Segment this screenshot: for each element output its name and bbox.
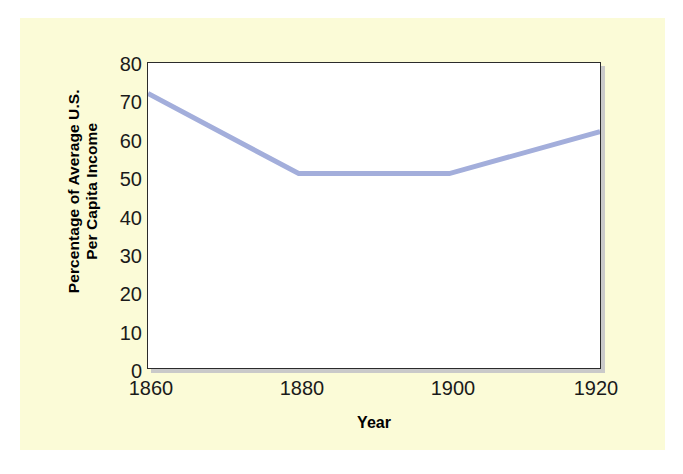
y-tick-label: 70: [96, 92, 142, 112]
y-tick-label: 10: [96, 323, 142, 343]
chart-figure: 80 70 60 50 40 30 20 10 0 1860 1880 1900…: [0, 0, 683, 474]
y-tick-label: 60: [96, 131, 142, 151]
y-tick-label: 40: [96, 208, 142, 228]
plot-area: [147, 62, 601, 369]
y-tick-label: 80: [96, 54, 142, 74]
x-tick-label: 1920: [551, 378, 641, 398]
x-tick-label: 1880: [257, 378, 347, 398]
y-tick-label: 50: [96, 169, 142, 189]
x-axis-tick-labels: 1860 1880 1900 1920: [147, 378, 601, 406]
x-tick-label: 1860: [106, 378, 196, 398]
y-axis-title: Percentage of Average U.S. Per Capita In…: [65, 36, 102, 346]
data-series-line: [148, 94, 600, 174]
x-tick-label: 1900: [408, 378, 498, 398]
y-axis-title-line-1: Percentage of Average U.S.: [65, 36, 83, 346]
y-tick-label: 20: [96, 284, 142, 304]
x-axis-title: Year: [147, 414, 601, 432]
y-axis-title-line-2: Per Capita Income: [83, 36, 101, 346]
line-chart-svg: [148, 63, 600, 368]
y-tick-label: 30: [96, 246, 142, 266]
